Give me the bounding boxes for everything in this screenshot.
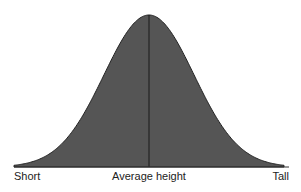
x-label-short: Short (14, 170, 40, 182)
bell-curve-chart (0, 0, 301, 192)
x-label-average: Average height (112, 170, 186, 182)
x-label-tall: Tall (272, 170, 289, 182)
